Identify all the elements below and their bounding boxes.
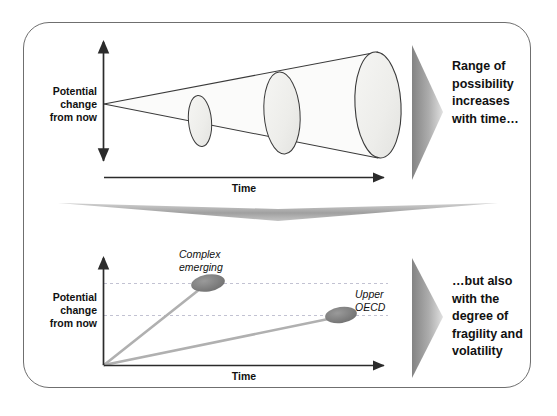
figure-canvas: Potential change from now Time Range of … (0, 0, 557, 416)
bottom-y-axis-label: Potential change from now (25, 291, 97, 330)
bottom-side-text: …but also with the degree of fragility a… (452, 273, 552, 361)
top-x-axis-label: Time (164, 182, 324, 194)
bottom-x-axis-label: Time (164, 370, 324, 382)
annotation-upper-oecd: Upper OECD (355, 288, 425, 314)
top-y-axis-label: Potential change from now (25, 85, 97, 124)
annotation-complex-emerging: Complex emerging (179, 248, 269, 274)
top-side-text: Range of possibility increases with time… (452, 58, 548, 128)
